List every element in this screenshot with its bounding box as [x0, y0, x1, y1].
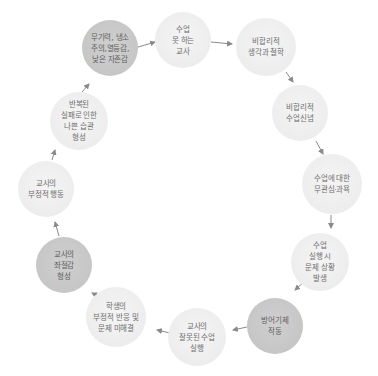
node-text: 교사 [176, 46, 190, 57]
node-text: 못 하는 [172, 35, 195, 46]
node-text: 반복된 [69, 99, 89, 110]
node-text: 생각과 철학 [248, 47, 284, 58]
node-text: 수업 [313, 240, 327, 251]
arrow-2-to-3 [286, 72, 293, 82]
node-text: 작동 [268, 326, 282, 337]
cycle-node-4: 수업에 대한 무관심·과욕 [302, 154, 362, 214]
cycle-node-2: 비합리적 생각과 철학 [236, 18, 296, 76]
node-text: 수업 [176, 24, 190, 35]
node-text: 부정적 반응 및 [93, 312, 138, 323]
node-text: 무관심·과욕 [314, 184, 350, 195]
node-text: 교사의 [54, 249, 74, 260]
node-text: 좌절감 [54, 260, 74, 271]
cycle-node-6: 방어기제 작동 [247, 298, 303, 354]
arrow-6-to-7 [233, 327, 247, 330]
node-text: 수업신념 [286, 113, 313, 124]
cycle-node-12: 무기력, 냉소 주의,열등감, 낮은 자존감 [82, 20, 138, 76]
cycle-node-5: 수업 실행 시 문제 상황 발생 [291, 233, 349, 291]
node-text: 교사의 [36, 178, 56, 189]
node-text: 실행 [190, 343, 204, 354]
vicious-cycle-diagram: 수업 못 하는 교사 비합리적 생각과 철학 비합리적 수업신념 수업에 대한 … [0, 0, 378, 376]
cycle-node-9: 교사의 좌절감 형성 [36, 237, 92, 293]
cycle-node-1: 수업 못 하는 교사 [155, 12, 211, 68]
cycle-node-3: 비합리적 수업신념 [272, 85, 328, 141]
cycle-node-10: 교사의 부정적 행동 [18, 161, 74, 217]
node-text: 학생의 [106, 301, 126, 312]
node-text: 문제 상황 [305, 262, 334, 273]
node-text: 무기력, 냉소 [91, 32, 129, 43]
arrow-1-to-2 [211, 42, 232, 44]
node-text: 주의,열등감, [91, 43, 129, 54]
node-text: 비합리적 [286, 102, 313, 113]
node-text: 교사의 [187, 321, 207, 332]
node-text: 형성 [72, 132, 86, 143]
cycle-node-11: 반복된 실패로 인한 나쁜 습관 형성 [50, 92, 108, 150]
node-text: 비합리적 [252, 36, 279, 47]
node-text: 문제 미해결 [98, 323, 134, 334]
node-text: 발생 [313, 273, 327, 284]
arrow-11-to-12 [82, 84, 89, 92]
node-text: 잘못된 수업 [179, 332, 215, 343]
node-text: 부정적 행동 [28, 189, 64, 200]
cycle-node-7: 교사의 잘못된 수업 실행 [168, 308, 226, 366]
arrow-3-to-4 [316, 141, 323, 154]
arrow-12-to-1 [135, 42, 155, 48]
arrow-10-to-11 [52, 150, 55, 160]
node-text: 낮은 자존감 [92, 54, 128, 65]
node-text: 수업에 대한 [314, 173, 350, 184]
node-text: 실패로 인한 [61, 110, 97, 121]
node-text: 실행 시 [309, 251, 332, 262]
node-text: 형성 [57, 271, 71, 282]
node-text: 나쁜 습관 [64, 121, 93, 132]
arrow-9-to-10 [55, 222, 59, 236]
cycle-node-8: 학생의 부정적 반응 및 문제 미해결 [86, 287, 146, 347]
node-text: 방어기제 [261, 315, 288, 326]
